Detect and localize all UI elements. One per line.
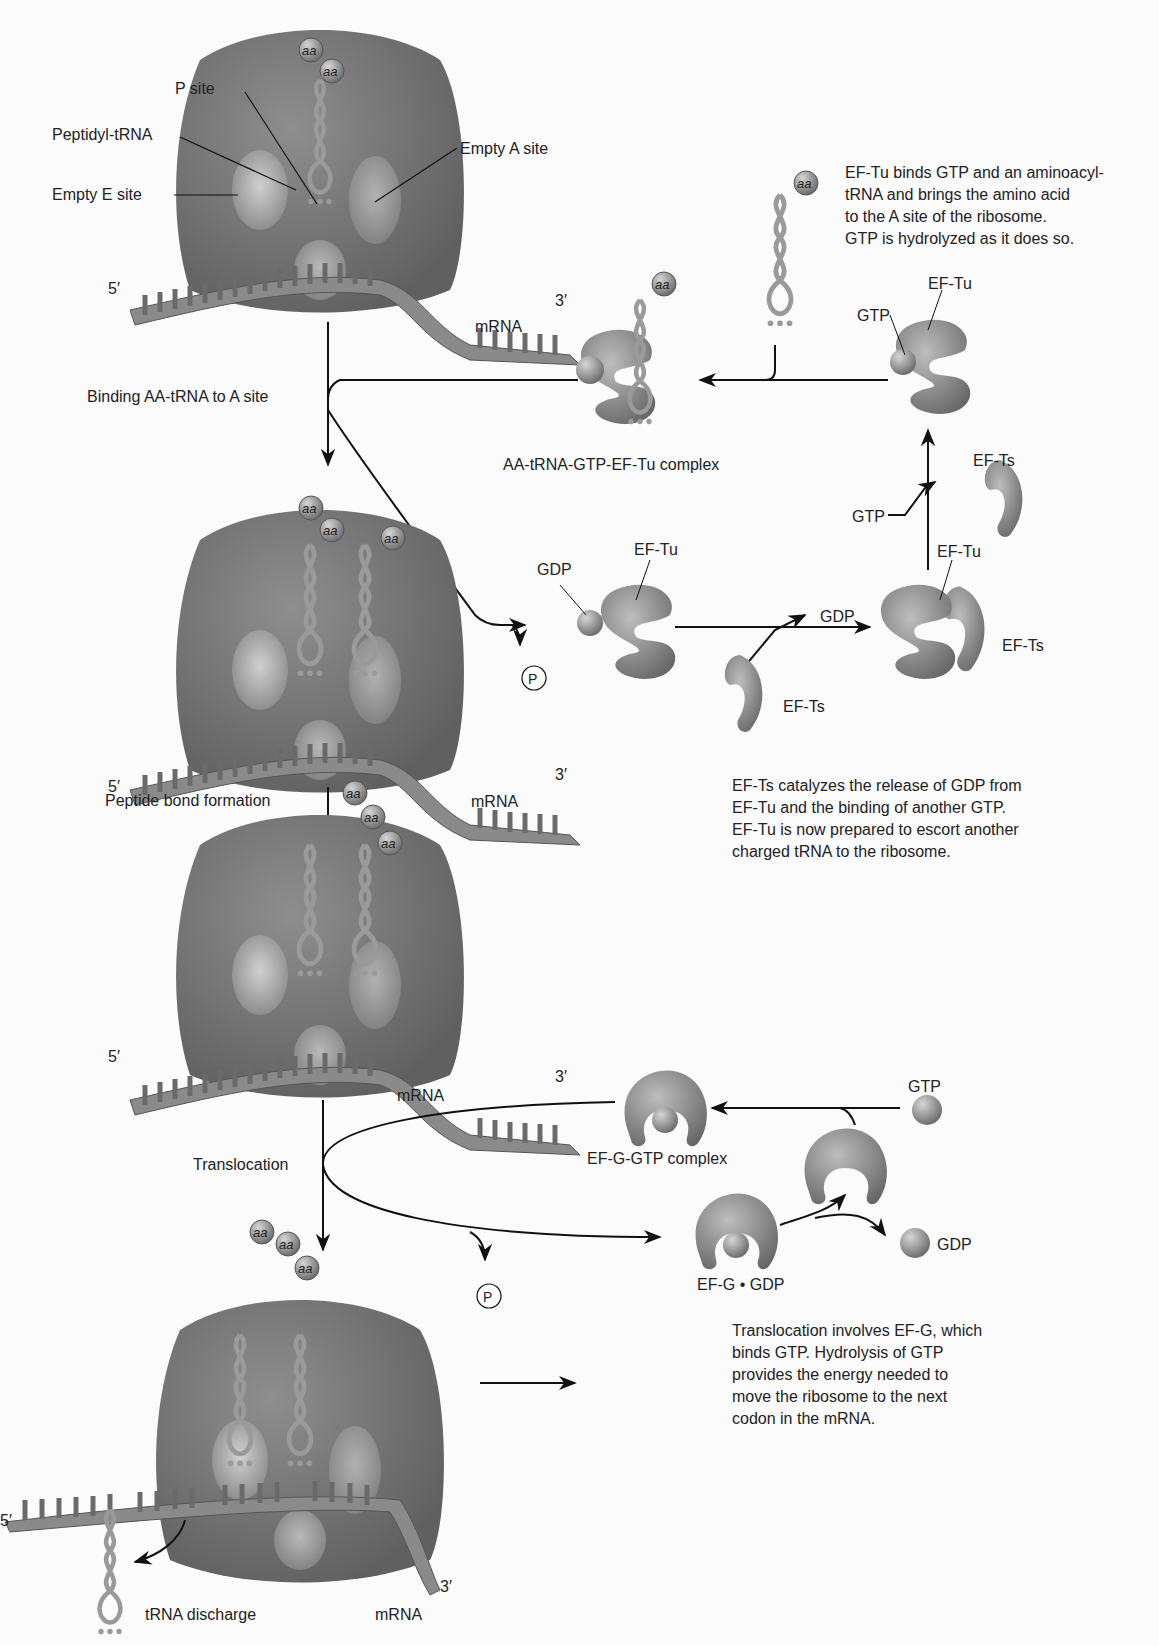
ef-tu-label-top: EF-Tu [928,275,972,293]
svg-text:aa: aa [364,810,378,825]
peptidyl-trna-label: Peptidyl-tRNA [52,126,152,144]
phosphate-label-1: P [528,670,537,688]
step-translocation-label: Translocation [193,1156,288,1174]
mrna-label: mRNA [475,318,522,336]
ef-tu-ef-ts-complex [881,560,985,679]
mrna-label-2: mRNA [471,793,518,811]
svg-text:aa: aa [797,176,811,191]
svg-text:aa: aa [655,277,669,292]
ribosome-4 [156,1300,444,1583]
phosphate-label-2: P [483,1288,492,1306]
gtp-label-efg: GTP [908,1078,941,1096]
three-prime-label-3: 3′ [555,1068,567,1086]
gtp-label-top: GTP [857,307,890,325]
svg-text:aa: aa [346,786,360,801]
svg-text:aa: aa [298,1261,312,1276]
gtp-in-label: GTP [852,508,885,526]
three-prime-label-4: 3′ [440,1578,452,1596]
ef-g-gtp-complex-label: EF-G-GTP complex [587,1150,727,1168]
gdp-label: GDP [537,561,572,579]
ribosome-3 [130,815,580,1155]
gdp-release-label: GDP [820,608,855,626]
ef-g-gdp-label: EF-G • GDP [697,1276,784,1294]
aa-trna-gtp-ef-tu-complex: aa [576,272,676,424]
free-trna: aa [768,171,818,326]
mrna-label-3: mRNA [397,1087,444,1105]
aa-trna-complex-label: AA-tRNA-GTP-EF-Tu complex [503,456,719,474]
step-peptide-bond-label: Peptide bond formation [105,792,270,810]
three-prime-label: 3′ [555,292,567,310]
five-prime-label-4: 5′ [0,1512,12,1530]
svg-text:aa: aa [323,523,337,538]
empty-a-site-label: Empty A site [460,140,548,158]
ef-tu-note: EF-Tu binds GTP and an aminoacyl- tRNA a… [845,162,1155,250]
discharged-trna [98,1510,121,1634]
p-site-label: P site [175,80,215,98]
mrna-label-4: mRNA [375,1606,422,1624]
ef-tu-gtp [890,290,970,414]
ef-tu-label-gdp: EF-Tu [634,541,678,559]
five-prime-label-2: 5′ [108,778,120,796]
three-prime-label-2: 3′ [555,766,567,784]
gdp-sphere [900,1228,930,1258]
ef-ts-note: EF-Ts catalyzes the release of GDP from … [732,775,1112,863]
ef-g-free [805,1128,887,1204]
gdp-label-efg: GDP [937,1236,972,1254]
gtp-sphere [912,1095,942,1125]
svg-text:aa: aa [279,1237,293,1252]
svg-text:aa: aa [381,836,395,851]
five-prime-label-3: 5′ [108,1048,120,1066]
step-binding-label: Binding AA-tRNA to A site [87,388,268,406]
trna-discharge-label: tRNA discharge [145,1606,256,1624]
empty-e-site-label: Empty E site [52,186,142,204]
ef-tu-complex-label: EF-Tu [937,543,981,561]
ef-g-note: Translocation involves EF-G, which binds… [732,1320,1052,1430]
ef-ts-released-label: EF-Ts [973,452,1015,470]
ef-ts-free-label: EF-Ts [783,698,825,716]
ef-g-gdp [696,1193,778,1269]
svg-text:aa: aa [253,1225,267,1240]
five-prime-label: 5′ [108,280,120,298]
svg-text:aa: aa [302,501,316,516]
ef-g-gtp-complex [625,1070,707,1146]
svg-text:aa: aa [302,43,316,58]
ef-tu-gdp [560,560,675,679]
svg-text:aa: aa [323,64,337,79]
ef-ts-complex-label: EF-Ts [1002,637,1044,655]
svg-text:aa: aa [384,531,398,546]
